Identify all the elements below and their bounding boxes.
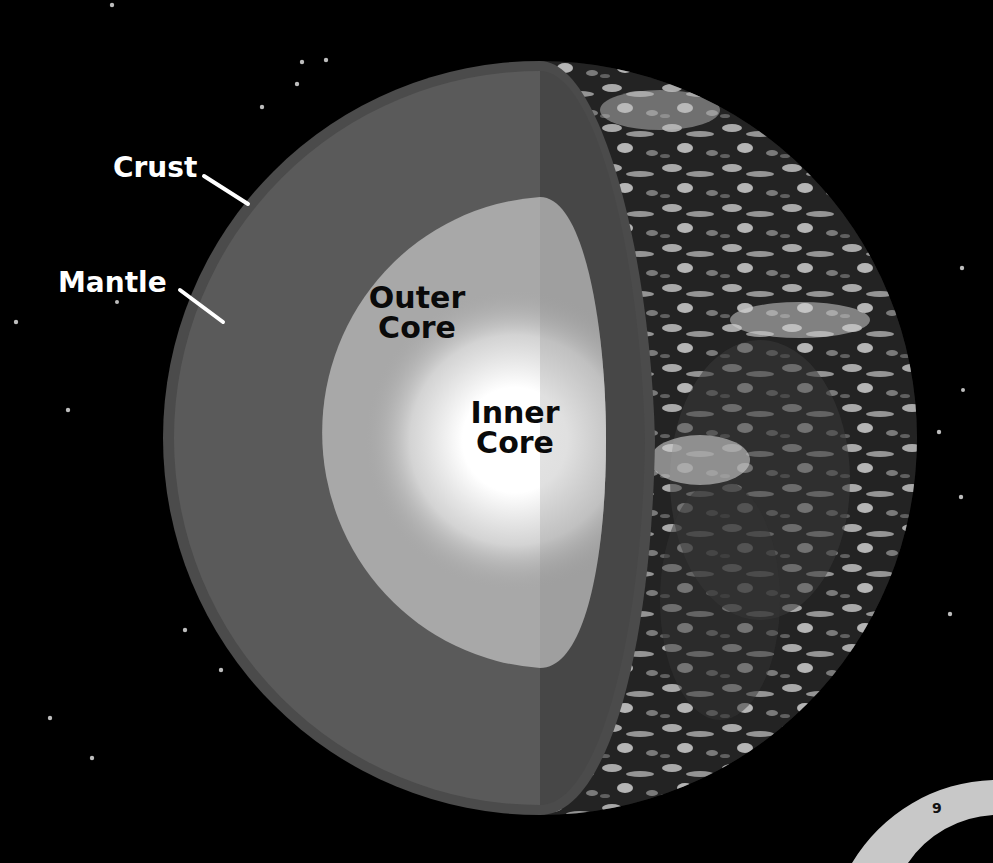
inner-core-label: Inner Core (460, 398, 570, 458)
crust-leader-line (204, 176, 248, 204)
page-tab (852, 780, 993, 863)
inner-core-label-line1: Inner (460, 398, 570, 428)
crust-label: Crust (113, 154, 197, 182)
mantle-label: Mantle (58, 269, 167, 297)
inner-core-label-line2: Core (460, 428, 570, 458)
outer-core-label-line2: Core (362, 313, 472, 343)
outer-core-label-line1: Outer (362, 283, 472, 313)
outer-core-label: Outer Core (362, 283, 472, 343)
page-number: 9 (932, 800, 942, 816)
earth-layers-diagram: Crust Mantle Outer Core Inner Core 9 (0, 0, 993, 863)
